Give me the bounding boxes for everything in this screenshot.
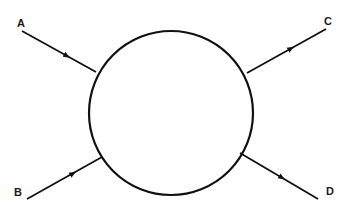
line-d — [240, 153, 318, 199]
label-d: D — [326, 185, 334, 197]
line-c — [247, 29, 326, 73]
label-a: A — [17, 17, 25, 29]
line-b — [27, 157, 102, 199]
diagram-canvas: A B C D — [0, 0, 351, 213]
line-a — [22, 31, 96, 72]
label-c: C — [324, 15, 332, 27]
interaction-blob — [89, 31, 253, 195]
label-b: B — [14, 186, 22, 198]
